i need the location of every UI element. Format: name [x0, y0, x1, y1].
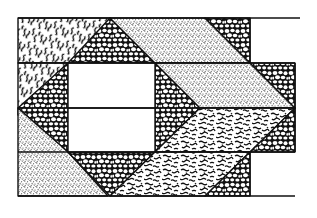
patchwork-diagram — [0, 0, 317, 218]
patchwork-svg — [0, 0, 317, 218]
